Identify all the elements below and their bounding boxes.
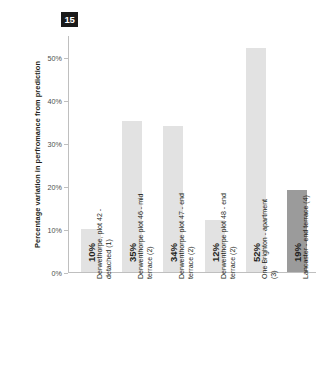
y-axis-title: Percentage variation in perfromance from… <box>33 45 42 265</box>
category-label-1: Derwethorpe, plot 42 - detached (1) <box>96 193 113 279</box>
tick-mark <box>64 58 68 59</box>
bar-value-label: 52% <box>251 243 262 262</box>
tick-label: 10% <box>48 225 62 234</box>
bar-value-label: 10% <box>86 243 97 262</box>
category-label-3: Derwenthorpe plot 47 - end terrace (2) <box>178 193 195 279</box>
category-label-2: Derwenthorpe plot 46 - mid terrace (2) <box>137 193 154 279</box>
tick-label: 40% <box>48 96 62 105</box>
tick-label: 30% <box>48 139 62 148</box>
tick-mark <box>64 187 68 188</box>
tick-label: 0% <box>52 269 62 278</box>
bar-chart-figure: Percentage variation in perfromance from… <box>0 0 323 374</box>
category-label-4: Derwenthorpe plot 48 - end terrace (2) <box>220 193 237 279</box>
bar-value-label: 19% <box>292 243 303 262</box>
tick-label: 50% <box>48 53 62 62</box>
bar-value-label: 35% <box>127 243 138 262</box>
tick-mark <box>64 230 68 231</box>
tick-mark <box>64 144 68 145</box>
tick-mark <box>64 101 68 102</box>
tick-mark <box>64 273 68 274</box>
bar-value-label: 12% <box>210 243 221 262</box>
y-axis-line <box>68 36 69 273</box>
category-label-6: Lancaster - end terrace (4) <box>302 193 311 279</box>
bar-value-label: 34% <box>168 243 179 262</box>
category-label-5: One Brighton - apartment (3) <box>261 193 278 279</box>
tick-label: 20% <box>48 182 62 191</box>
